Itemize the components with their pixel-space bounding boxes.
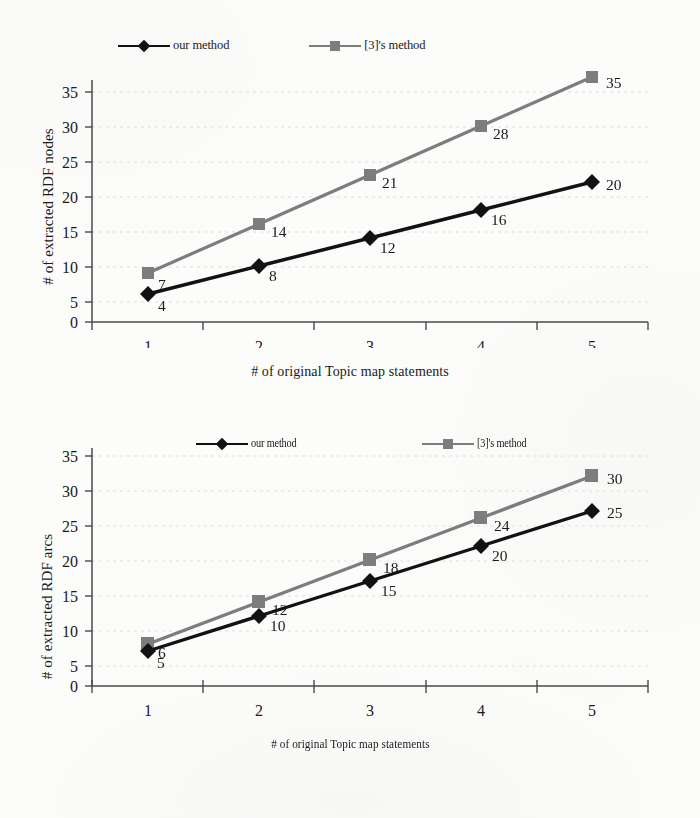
data-label: 21 [382, 174, 398, 191]
data-label: 14 [271, 223, 287, 240]
x-axis-title-text: # of original Topic map statements [271, 736, 429, 752]
y-axis-title-rdf-arcs: # of extracted RDF arcs [39, 502, 56, 712]
y-tick-label: 20 [62, 189, 78, 206]
y-tick-label: 35 [62, 448, 78, 465]
x-axis-ticks [92, 322, 648, 330]
x-tick-label: 1 [144, 702, 152, 719]
legend-entry-our-method: our method [196, 436, 304, 451]
series-our-method: 5 10 15 20 25 [140, 503, 623, 671]
legend-label-third-method: [3]'s method [364, 38, 425, 53]
y-tick-label: 10 [62, 259, 78, 276]
figure-rdf-nodes: our method [3]'s method # of extracted R… [0, 18, 700, 398]
series-third-method: 7 14 21 28 35 [142, 71, 622, 293]
y-tick-label: 10 [62, 623, 78, 640]
data-label: 15 [381, 582, 397, 599]
figure-rdf-arcs: our method [3]'s method # of extracted R… [0, 418, 700, 814]
legend-rdf-nodes: our method [3]'s method [118, 38, 425, 53]
data-label: 12 [380, 239, 396, 256]
axis-lines [92, 448, 648, 686]
data-label: 4 [158, 297, 166, 314]
y-tick-label: 0 [70, 678, 78, 695]
square-marker-icon [309, 39, 361, 53]
legend-label-our-method: our method [173, 38, 229, 53]
diamond-marker-icon [118, 39, 170, 53]
x-tick-label: 4 [477, 338, 485, 348]
y-tick-label: 15 [62, 588, 78, 605]
x-axis-title-rdf-arcs: # of original Topic map statements [20, 736, 680, 752]
diamond-marker-icon [196, 437, 248, 451]
plot-area-rdf-nodes: 35 30 25 20 15 10 5 0 1 2 [0, 18, 700, 348]
x-tick-label: 3 [366, 338, 374, 348]
data-label: 20 [492, 547, 508, 564]
data-label: 35 [606, 74, 622, 91]
x-tick-label: 5 [588, 702, 596, 719]
square-marker-icon [422, 437, 474, 451]
document-page: our method [3]'s method # of extracted R… [0, 0, 700, 818]
data-label: 28 [493, 125, 509, 142]
x-tick-label: 5 [588, 338, 596, 348]
y-tick-label: 5 [70, 294, 78, 311]
data-label: 24 [494, 517, 510, 534]
y-axis-title-rdf-nodes: # of extracted RDF nodes [40, 97, 57, 317]
y-tick-label: 25 [62, 518, 78, 535]
y-axis-ticks [85, 92, 92, 322]
x-tick-label: 2 [255, 702, 263, 719]
y-tick-label: 35 [62, 84, 78, 101]
y-tick-label: 15 [62, 224, 78, 241]
data-label: 16 [491, 211, 507, 228]
x-tick-label: 4 [477, 702, 485, 719]
data-label: 30 [607, 470, 623, 487]
data-label: 20 [606, 176, 622, 193]
y-tick-label: 20 [62, 553, 78, 570]
y-tick-label: 5 [70, 658, 78, 675]
data-label: 5 [157, 654, 165, 671]
gridlines [92, 92, 648, 302]
x-tick-label: 1 [144, 338, 152, 348]
legend-entry-our-method: our method [118, 38, 229, 53]
y-tick-label: 0 [70, 314, 78, 331]
y-tick-label: 25 [62, 154, 78, 171]
legend-entry-third-method: [3]'s method [309, 38, 425, 53]
legend-label-our-method: our method [251, 436, 297, 451]
x-axis-title-rdf-nodes: # of original Topic map statements [20, 364, 680, 380]
plot-area-rdf-arcs: 35 30 25 20 15 10 5 0 1 2 3 4 [0, 418, 700, 748]
y-axis-ticks [85, 456, 92, 686]
y-tick-label: 30 [62, 119, 78, 136]
legend-entry-third-method: [3]'s method [422, 436, 534, 451]
x-tick-label: 2 [255, 338, 263, 348]
x-tick-label: 3 [366, 702, 374, 719]
legend-label-third-method: [3]'s method [477, 436, 526, 451]
data-label: 25 [607, 504, 623, 521]
data-label: 10 [270, 617, 286, 634]
y-tick-label: 30 [62, 483, 78, 500]
data-label: 8 [269, 267, 277, 284]
legend-rdf-arcs: our method [3]'s method [196, 436, 534, 451]
